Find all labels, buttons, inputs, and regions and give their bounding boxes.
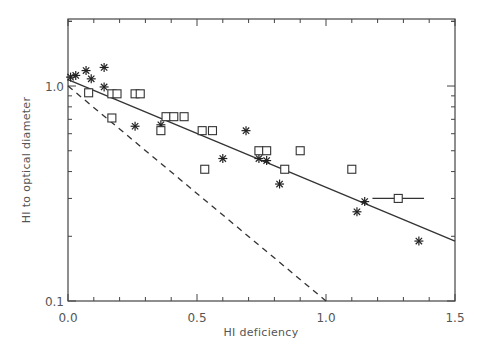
x-tick-label: 1.5 bbox=[445, 311, 464, 325]
asterisk-marker bbox=[218, 154, 227, 163]
square-marker bbox=[157, 127, 165, 135]
asterisk-marker bbox=[360, 197, 369, 206]
asterisk-marker bbox=[414, 237, 423, 246]
x-tick-label: 0.5 bbox=[187, 311, 206, 325]
asterisk-marker bbox=[71, 71, 80, 80]
square-marker bbox=[348, 165, 356, 173]
y-tick-label: 0.1 bbox=[45, 295, 64, 309]
square-marker bbox=[85, 89, 93, 97]
y-tick-label: 1.0 bbox=[45, 80, 64, 94]
chart: 0.00.51.01.5 0.11.0 HI deficiency HI to … bbox=[0, 0, 482, 354]
asterisk-marker bbox=[262, 156, 271, 165]
square-marker bbox=[208, 127, 216, 135]
x-tick-label: 1.0 bbox=[316, 311, 335, 325]
asterisk-marker bbox=[131, 122, 140, 131]
y-axis-title: HI to optical diameter bbox=[20, 97, 33, 224]
asterisk-marker bbox=[100, 82, 109, 91]
square-marker bbox=[113, 90, 121, 98]
square-marker bbox=[201, 165, 209, 173]
square-marker bbox=[108, 114, 116, 122]
square-marker bbox=[198, 127, 206, 135]
x-axis-title: HI deficiency bbox=[224, 326, 299, 339]
asterisk-marker bbox=[87, 74, 96, 83]
square-marker bbox=[296, 147, 304, 155]
asterisk-marker bbox=[82, 66, 91, 75]
x-axis-ticks: 0.00.51.01.5 bbox=[58, 19, 464, 325]
data-points bbox=[66, 63, 424, 246]
square-marker bbox=[180, 113, 188, 121]
square-marker bbox=[136, 90, 144, 98]
asterisk-marker bbox=[242, 126, 251, 135]
dashed-relation-line bbox=[68, 86, 326, 301]
asterisk-marker bbox=[352, 207, 361, 216]
square-marker bbox=[281, 165, 289, 173]
asterisk-marker bbox=[254, 154, 263, 163]
square-marker bbox=[170, 113, 178, 121]
square-marker bbox=[394, 194, 402, 202]
asterisk-marker bbox=[100, 63, 109, 72]
square-marker bbox=[263, 147, 271, 155]
square-marker bbox=[162, 113, 170, 121]
x-tick-label: 0.0 bbox=[58, 311, 77, 325]
square-marker bbox=[255, 147, 263, 155]
asterisk-marker bbox=[275, 180, 284, 189]
fit-lines bbox=[68, 80, 455, 301]
